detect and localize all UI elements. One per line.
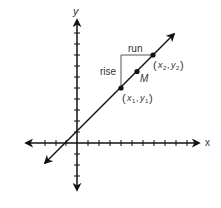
coordinate-plane: y x rise run M ( x 2 , y 2 ) ( x 1 , y 1… — [0, 0, 221, 208]
svg-text:,: , — [167, 60, 170, 70]
x-axis-label: x — [205, 137, 210, 148]
y-axis-label: y — [72, 5, 80, 17]
svg-text:,: , — [136, 93, 139, 103]
rise-label: rise — [100, 66, 117, 77]
svg-text:(: ( — [122, 92, 126, 104]
y-axis — [74, 20, 80, 190]
svg-text:(: ( — [153, 59, 157, 71]
midpoint-m — [134, 69, 139, 74]
point-1 — [118, 85, 123, 90]
point-2-label: ( x 2 , y 2 ) — [153, 59, 184, 71]
run-label: run — [128, 43, 142, 54]
midpoint-label: M — [140, 73, 149, 84]
point-1-label: ( x 1 , y 1 ) — [122, 92, 153, 104]
svg-text:): ) — [180, 59, 184, 71]
point-2 — [150, 52, 155, 57]
x-axis — [26, 140, 199, 146]
svg-text:): ) — [149, 92, 153, 104]
